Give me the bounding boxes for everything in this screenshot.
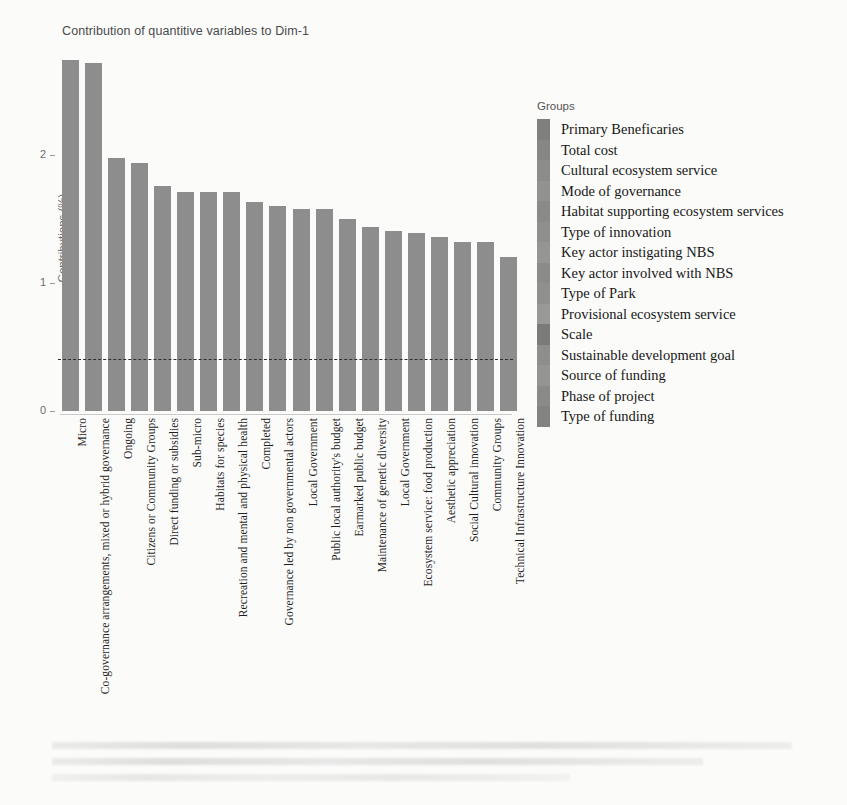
- legend-color-swatch: [537, 386, 550, 407]
- x-tick-label: Ongoing: [122, 418, 134, 459]
- legend-item-label: Source of funding: [561, 368, 666, 383]
- x-tick-label: Social Cultural innovation: [468, 418, 480, 542]
- legend-color-swatch: [537, 181, 550, 202]
- bar: [269, 206, 286, 411]
- x-tick-label: Co-governance arrangements, mixed or hyb…: [99, 418, 111, 694]
- x-tick-label: Governance led by non governmental actor…: [283, 418, 295, 626]
- bar: [154, 186, 171, 411]
- legend-item: Source of funding: [537, 365, 784, 386]
- legend-color-swatch: [537, 324, 550, 345]
- bar: [246, 202, 263, 411]
- reference-dashed-line: [58, 359, 513, 360]
- legend-item-label: Type of funding: [561, 409, 654, 424]
- bar: [454, 242, 471, 411]
- legend-color-swatch: [537, 263, 550, 284]
- legend-item-label: Type of innovation: [561, 225, 671, 240]
- legend-color-swatch: [537, 119, 550, 140]
- legend-title: Groups: [537, 100, 575, 112]
- legend-item-label: Sustainable development goal: [561, 348, 735, 363]
- legend-item: Provisional ecosystem service: [537, 304, 784, 325]
- x-tick-label: Earmarked public budget: [353, 418, 365, 537]
- legend-color-swatch: [537, 283, 550, 304]
- legend-color-swatch: [537, 140, 550, 161]
- legend-item-label: Key actor instigating NBS: [561, 245, 714, 260]
- y-tick-mark: [50, 411, 55, 412]
- legend-item: Primary Beneficaries: [537, 119, 784, 140]
- legend-item-label: Type of Park: [561, 286, 636, 301]
- bar: [408, 233, 425, 411]
- smudge-line: [52, 774, 570, 781]
- x-tick-label: Ecosystem service: food production: [422, 418, 434, 587]
- legend-item-label: Primary Beneficaries: [561, 122, 684, 137]
- legend-item-label: Total cost: [561, 143, 618, 158]
- legend-item-label: Provisional ecosystem service: [561, 307, 736, 322]
- smudge-line: [52, 758, 703, 765]
- bar: [477, 242, 494, 411]
- y-tick-label: 2: [24, 148, 46, 160]
- legend-item-label: Key actor involved with NBS: [561, 266, 733, 281]
- x-tick-label: Citizens or Community Groups: [145, 418, 157, 566]
- legend-color-swatch: [537, 406, 550, 427]
- legend-color-swatch: [537, 304, 550, 325]
- legend-item-label: Mode of governance: [561, 184, 681, 199]
- y-tick-mark: [50, 283, 55, 284]
- legend-item: Type of Park: [537, 283, 784, 304]
- x-tick-label: Aesthetic appreciation: [445, 418, 457, 523]
- legend-item: Cultural ecosystem service: [537, 160, 784, 181]
- bar: [316, 209, 333, 411]
- legend-color-swatch: [537, 201, 550, 222]
- legend-item-list: Primary BeneficariesTotal costCultural e…: [537, 119, 784, 427]
- x-axis-labels: MicroCo-governance arrangements, mixed o…: [0, 418, 560, 678]
- x-tick-label: Micro: [76, 418, 88, 447]
- bar: [108, 158, 125, 411]
- x-tick-label: Recreation and mental and physical healt…: [237, 418, 249, 617]
- zero-axis-line: [60, 414, 512, 415]
- legend-item: Total cost: [537, 140, 784, 161]
- legend-item-label: Habitat supporting ecosystem services: [561, 204, 784, 219]
- legend-item: Key actor involved with NBS: [537, 263, 784, 284]
- legend-item-label: Scale: [561, 327, 592, 342]
- legend-item: Mode of governance: [537, 181, 784, 202]
- x-tick-label: Direct funding or subsidies: [168, 418, 180, 546]
- legend-item: Key actor instigating NBS: [537, 242, 784, 263]
- legend-color-swatch: [537, 222, 550, 243]
- smudge-line: [52, 742, 792, 749]
- legend-item: Phase of project: [537, 386, 784, 407]
- y-tick-label: 0: [24, 404, 46, 416]
- legend-item: Sustainable development goal: [537, 345, 784, 366]
- legend-item: Scale: [537, 324, 784, 345]
- x-tick-label: Technical Infrastructure Innovation: [514, 418, 526, 584]
- bar: [362, 227, 379, 411]
- bar: [339, 219, 356, 411]
- page-caption-smudge: [52, 742, 792, 790]
- bar: [177, 192, 194, 411]
- x-tick-label: Maintenance of genetic diversity: [376, 418, 388, 572]
- legend-item: Type of funding: [537, 406, 784, 427]
- x-tick-label: Local Government: [399, 418, 411, 506]
- x-tick-label: Completed: [260, 418, 272, 469]
- bar: [293, 209, 310, 411]
- x-tick-label: Habitats for species: [214, 418, 226, 511]
- bar: [131, 163, 148, 411]
- y-tick-label: 1: [24, 276, 46, 288]
- x-tick-label: Community Groups: [491, 418, 503, 511]
- legend-color-swatch: [537, 242, 550, 263]
- legend-color-swatch: [537, 365, 550, 386]
- bar: [500, 257, 517, 411]
- bar: [200, 192, 217, 411]
- legend-color-swatch: [537, 345, 550, 366]
- legend-item: Type of innovation: [537, 222, 784, 243]
- legend-item-label: Cultural ecosystem service: [561, 163, 717, 178]
- bar: [431, 237, 448, 411]
- legend-color-swatch: [537, 160, 550, 181]
- x-tick-label: Local Government: [307, 418, 319, 506]
- x-tick-label: Sub-micro: [191, 418, 203, 467]
- legend-item-label: Phase of project: [561, 389, 654, 404]
- bar: [385, 231, 402, 411]
- bar: [223, 192, 240, 411]
- legend-item: Habitat supporting ecosystem services: [537, 201, 784, 222]
- chart-title: Contribution of quantitive variables to …: [62, 24, 309, 38]
- x-tick-label: Public local authority's budget: [330, 418, 342, 561]
- y-tick-mark: [50, 155, 55, 156]
